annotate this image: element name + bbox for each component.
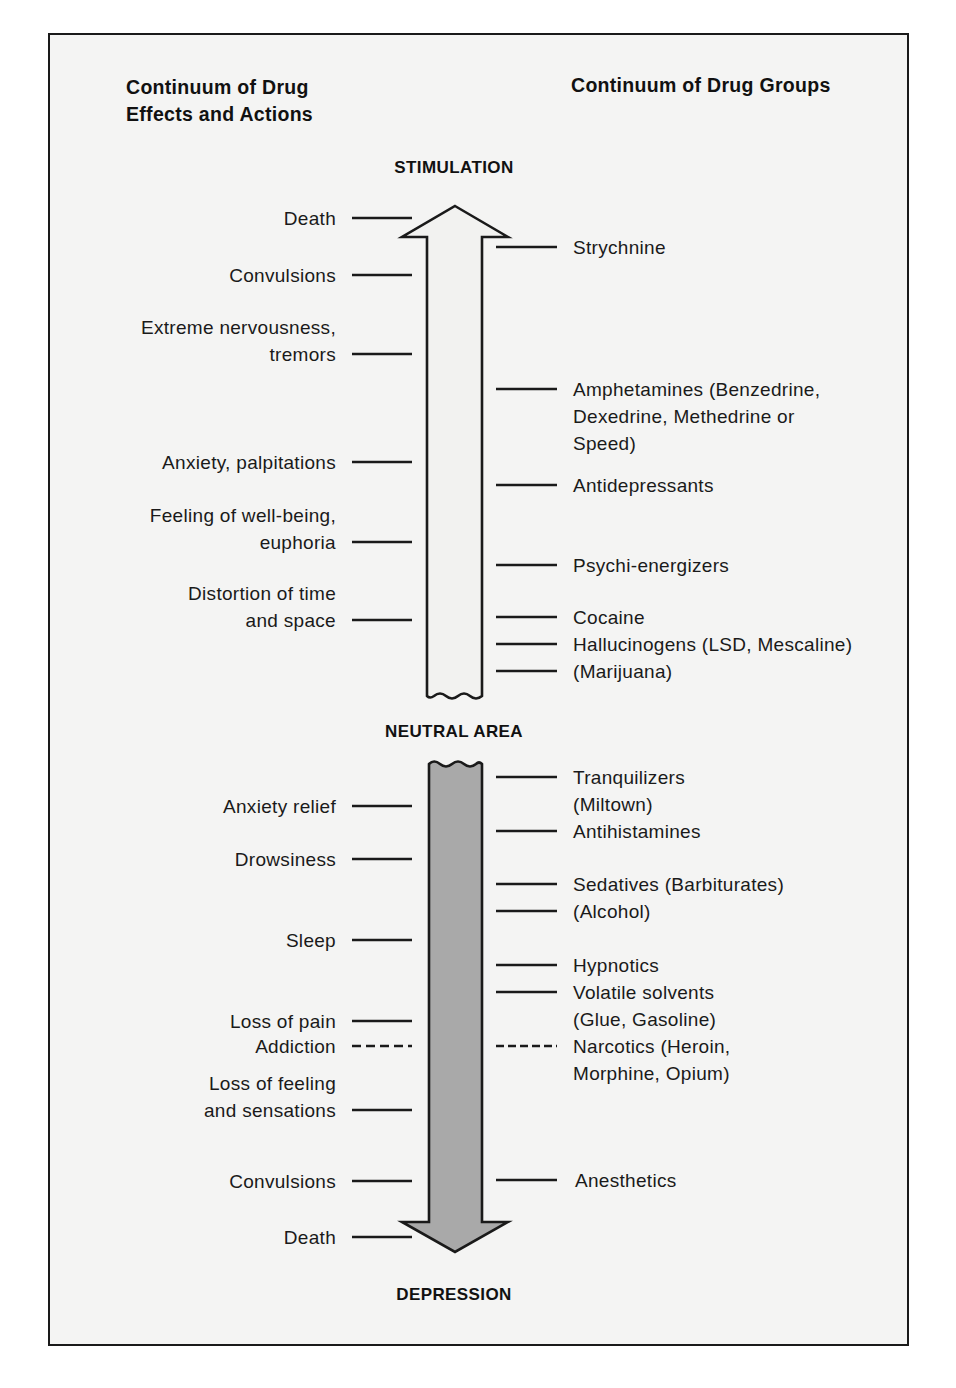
drug-group-item: Strychnine	[496, 237, 666, 258]
effect-item: Sleep	[286, 930, 412, 951]
drug-group-label: Volatile solvents	[573, 982, 714, 1003]
stimulation-arrow-icon	[402, 206, 508, 699]
drug-group-label: (Marijuana)	[573, 661, 672, 682]
effect-item: Convulsions	[229, 1171, 412, 1192]
effects-list: DeathConvulsionsExtreme nervousness,trem…	[141, 208, 412, 1248]
drug-group-label: Hypnotics	[573, 955, 659, 976]
diagram-canvas: Continuum of Drug Effects and Actions Co…	[0, 0, 956, 1388]
effect-item: Anxiety relief	[223, 796, 412, 817]
drug-group-label: Hallucinogens (LSD, Mescaline)	[573, 634, 852, 655]
drug-group-label: Antidepressants	[573, 475, 714, 496]
effect-item: Convulsions	[229, 265, 412, 286]
drug-group-label: Psychi-energizers	[573, 555, 729, 576]
drug-group-item: Hypnotics	[496, 955, 659, 976]
drug-group-label: Dexedrine, Methedrine or	[573, 406, 795, 427]
drug-group-label: Sedatives (Barbiturates)	[573, 874, 784, 895]
drug-group-label: Narcotics (Heroin,	[573, 1036, 730, 1057]
drug-group-label: Speed)	[573, 433, 636, 454]
drug-group-item: Psychi-energizers	[496, 555, 729, 576]
drug-group-label: Morphine, Opium)	[573, 1063, 730, 1084]
drug-group-label: Antihistamines	[573, 821, 701, 842]
drug-group-item: Sedatives (Barbiturates)	[496, 874, 784, 895]
drug-group-item: Hallucinogens (LSD, Mescaline)	[496, 634, 852, 655]
effect-label: Anxiety, palpitations	[162, 452, 336, 473]
drug-group-item: Volatile solvents(Glue, Gasoline)	[496, 982, 716, 1030]
effect-item: Addiction	[255, 1036, 412, 1057]
drug-group-label: Tranquilizers	[573, 767, 685, 788]
drug-group-item: Antihistamines	[496, 821, 701, 842]
drug-group-label: Amphetamines (Benzedrine,	[573, 379, 820, 400]
effect-label: Feeling of well-being,	[150, 505, 336, 526]
drug-group-label: (Glue, Gasoline)	[573, 1009, 716, 1030]
stimulation-label: STIMULATION	[394, 158, 513, 177]
drug-group-label: Cocaine	[573, 607, 645, 628]
effect-label: Convulsions	[229, 1171, 336, 1192]
drug-group-item: (Alcohol)	[496, 901, 651, 922]
effect-item: Loss of pain	[230, 1011, 412, 1032]
effect-label: Addiction	[255, 1036, 336, 1057]
effect-label: and sensations	[204, 1100, 336, 1121]
drug-group-label: Strychnine	[573, 237, 666, 258]
effect-label: Death	[284, 208, 336, 229]
effect-label: Drowsiness	[235, 849, 336, 870]
drug-group-item: Narcotics (Heroin,Morphine, Opium)	[496, 1036, 730, 1084]
effect-label: Sleep	[286, 930, 336, 951]
drug-group-item: Tranquilizers(Miltown)	[496, 767, 685, 815]
effect-item: Death	[284, 1227, 412, 1248]
drug-group-label: (Alcohol)	[573, 901, 651, 922]
effect-item: Distortion of timeand space	[188, 583, 412, 631]
effect-label: Loss of feeling	[209, 1073, 336, 1094]
drug-group-item: Antidepressants	[496, 475, 714, 496]
effect-item: Feeling of well-being,euphoria	[150, 505, 412, 553]
right-header: Continuum of Drug Groups	[571, 74, 831, 96]
drug-group-item: Amphetamines (Benzedrine,Dexedrine, Meth…	[496, 379, 820, 454]
diagram: Continuum of Drug Effects and Actions Co…	[0, 0, 956, 1388]
effect-label: and space	[246, 610, 336, 631]
drug-group-label: (Miltown)	[573, 794, 653, 815]
drug-groups-list: StrychnineAmphetamines (Benzedrine,Dexed…	[496, 237, 852, 1191]
effect-item: Anxiety, palpitations	[162, 452, 412, 473]
drug-group-item: Cocaine	[496, 607, 645, 628]
effect-item: Death	[284, 208, 412, 229]
effect-item: Extreme nervousness,tremors	[141, 317, 412, 365]
drug-group-item: Anesthetics	[496, 1170, 677, 1191]
left-header-line-2: Effects and Actions	[126, 103, 313, 125]
drug-group-label: Anesthetics	[575, 1170, 677, 1191]
effect-label: euphoria	[260, 532, 336, 553]
effect-item: Loss of feelingand sensations	[204, 1073, 412, 1121]
drug-group-item: (Marijuana)	[496, 661, 672, 682]
effect-label: Distortion of time	[188, 583, 336, 604]
effect-label: Extreme nervousness,	[141, 317, 336, 338]
neutral-area-label: NEUTRAL AREA	[385, 722, 523, 741]
effect-label: tremors	[270, 344, 337, 365]
depression-arrow-icon	[402, 762, 508, 1253]
effect-label: Death	[284, 1227, 336, 1248]
effect-label: Anxiety relief	[223, 796, 336, 817]
depression-label: DEPRESSION	[396, 1285, 511, 1304]
effect-label: Loss of pain	[230, 1011, 336, 1032]
left-header-line-1: Continuum of Drug	[126, 76, 309, 98]
effect-item: Drowsiness	[235, 849, 412, 870]
effect-label: Convulsions	[229, 265, 336, 286]
